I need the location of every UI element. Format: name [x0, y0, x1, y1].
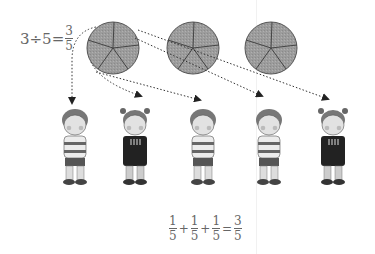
- fraction-term-3: 1 5: [212, 215, 220, 242]
- addition-equation: 1 5 + 1 5 + 1 5 = 3 5: [168, 215, 243, 242]
- numerator: 3: [234, 215, 242, 228]
- fraction-result: 3 5: [234, 215, 242, 242]
- child-boy-3: [256, 109, 282, 185]
- fraction-term-2: 1 5: [191, 215, 199, 242]
- pie-chart-1: [87, 22, 139, 74]
- numerator: 1: [169, 215, 177, 228]
- denominator: 5: [212, 228, 220, 242]
- child-boy-2: [190, 109, 216, 185]
- fraction-term-1: 1 5: [169, 215, 177, 242]
- plus-sign: +: [200, 222, 210, 236]
- pie-chart-2: [167, 22, 219, 74]
- child-girl-1: [120, 108, 150, 185]
- numerator: 1: [212, 215, 220, 228]
- numerator: 1: [191, 215, 199, 228]
- denominator: 5: [191, 228, 199, 242]
- child-girl-2: [318, 108, 348, 185]
- equals-sign: =: [222, 222, 232, 236]
- denominator: 5: [169, 228, 177, 242]
- child-boy-1: [62, 109, 88, 185]
- denominator: 5: [234, 228, 242, 242]
- arrow-to-child-3: [96, 72, 200, 100]
- pie-chart-3: [245, 22, 297, 74]
- plus-sign: +: [179, 222, 189, 236]
- arrow-to-child-5: [138, 30, 328, 99]
